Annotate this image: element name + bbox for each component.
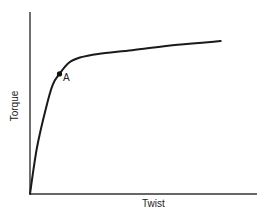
point-a-label: A [63, 72, 70, 83]
x-axis-title: Twist [142, 198, 165, 209]
y-axis-title: Torque [9, 91, 20, 122]
point-a-marker [57, 71, 62, 76]
torque-twist-curve [30, 41, 221, 194]
torque-twist-chart [0, 0, 265, 212]
